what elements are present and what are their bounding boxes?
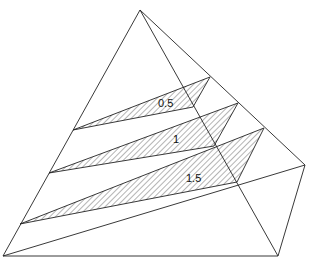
label-1: 1 <box>173 133 179 145</box>
label-0-5: 0.5 <box>158 97 173 109</box>
pyramid-diagram: 0.5 1 1.5 <box>0 0 310 265</box>
label-1-5: 1.5 <box>186 172 201 184</box>
